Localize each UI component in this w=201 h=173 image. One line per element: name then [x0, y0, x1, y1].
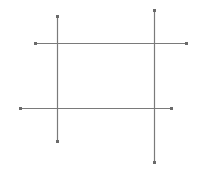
background: [0, 0, 201, 173]
line-diagram: [0, 0, 201, 173]
endpoint-marker-start: [19, 107, 22, 110]
endpoint-marker-end: [170, 107, 173, 110]
endpoint-marker-end: [185, 42, 188, 45]
endpoint-marker-start: [56, 15, 59, 18]
endpoint-marker-start: [34, 42, 37, 45]
endpoint-marker-end: [153, 161, 156, 164]
endpoint-marker-end: [56, 140, 59, 143]
endpoint-marker-start: [153, 9, 156, 12]
